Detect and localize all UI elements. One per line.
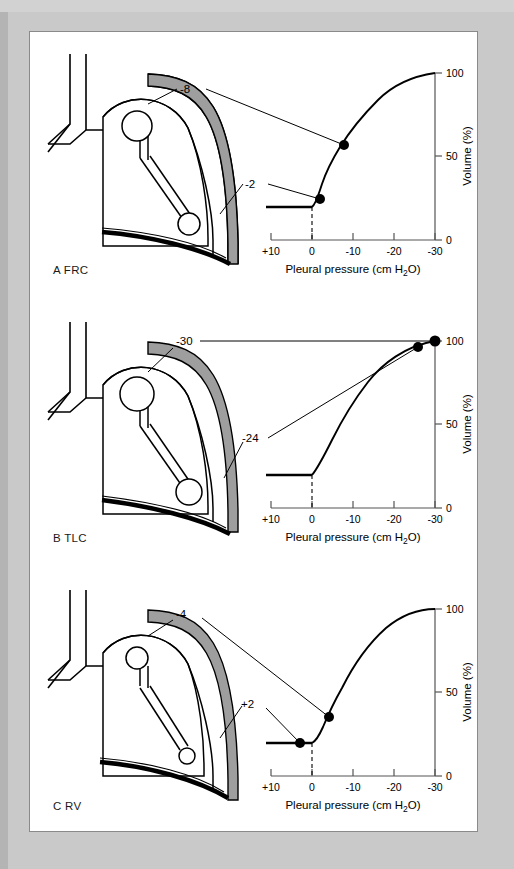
trachea-left-wall [48,54,70,144]
axes-b [271,341,442,508]
x-tick-label-plus10-b: +10 [262,513,280,525]
y-tick-label-0-a: 0 [446,234,452,246]
x-tick-label-minus20-c: -20 [386,781,401,793]
x-tick-label-minus30-c: -30 [427,781,442,793]
panel-b-tlc: -30 -24 +10 0 -10 -20 -30 0 50 100 Pleur… [30,300,479,568]
bronchus-branch-left-b [48,392,70,420]
leader-pleural-short-a [148,89,177,104]
trachea-left-wall-b [48,322,70,412]
leader-alveolar-to-point-a [268,184,320,199]
bronchus-branch-left [48,124,70,152]
panel-a-frc: -8 -2 +10 0 -10 -20 -30 0 50 100 Pleural… [30,32,479,300]
y-tick-label-100-b: 100 [446,335,464,347]
x-tick-label-minus20-a: -20 [386,245,401,257]
page-top-shading [0,0,514,12]
trachea-left-wall-c [48,590,70,680]
bronchus-branch-left-2-c [48,666,86,680]
bronchus-branch-left-2-b [48,398,86,412]
x-tick-label-minus20-b: -20 [386,513,401,525]
x-axis-title-a: Pleural pressure (cm H2O) [285,263,420,278]
y-tick-label-100-c: 100 [446,603,464,615]
panel-a-graphic: -8 -2 +10 0 -10 -20 -30 0 50 100 Pleural… [30,32,479,300]
x-tick-label-minus10-a: -10 [345,245,360,257]
panel-b-graphic: -30 -24 +10 0 -10 -20 -30 0 50 100 Pleur… [30,300,479,568]
y-tick-label-50-b: 50 [446,418,458,430]
alveolus-lower-a [178,213,200,235]
label-pleural-pressure-b: -30 [176,335,193,347]
page-gutter-shading [0,0,8,869]
panel-caption-a: A FRC [53,264,88,276]
y-axis-title-b: Volume (%) [461,394,473,454]
x-tick-label-plus10-c: +10 [262,781,280,793]
label-alveolar-pressure-b: -24 [242,432,259,444]
panel-c-graphic: -4 +2 +10 0 -10 -20 -30 0 50 100 Pleural… [30,568,479,833]
leader-alveolar-to-point-b [268,347,418,438]
label-pleural-pressure-a: -8 [180,83,190,95]
bronchus-branch-left-c [48,660,70,688]
y-axis-title-a: Volume (%) [461,126,473,186]
x-tick-label-minus10-b: -10 [345,513,360,525]
alveolus-lower-c [179,748,195,764]
panel-caption-c: C RV [53,800,81,812]
y-tick-label-50-a: 50 [446,150,458,162]
x-axis-title-c: Pleural pressure (cm H2O) [285,799,420,814]
leader-pleural-to-point-a [206,89,344,145]
figure-white-panel: -8 -2 +10 0 -10 -20 -30 0 50 100 Pleural… [29,31,478,832]
x-tick-label-plus10-a: +10 [262,245,280,257]
bronchus-branch-left-2 [48,130,86,144]
panel-caption-b: B TLC [53,532,87,544]
y-tick-label-0-b: 0 [446,502,452,514]
pressure-volume-curve-c [312,609,435,743]
x-tick-label-minus10-c: -10 [345,781,360,793]
y-axis-title-c: Volume (%) [461,662,473,722]
axes-a [271,73,442,240]
x-tick-label-0-a: 0 [309,245,315,257]
x-tick-label-0-b: 0 [309,513,315,525]
x-axis-title-b: Pleural pressure (cm H2O) [285,531,420,546]
leader-alveolar-to-point-c [266,708,300,743]
label-alveolar-pressure-c: +2 [241,698,254,710]
x-tick-label-minus30-a: -30 [427,245,442,257]
alveolus-upper-b [120,377,154,411]
y-tick-label-50-c: 50 [446,686,458,698]
x-tick-label-0-c: 0 [309,781,315,793]
figure-root: -8 -2 +10 0 -10 -20 -30 0 50 100 Pleural… [0,0,514,869]
y-tick-label-100-a: 100 [446,67,464,79]
pressure-volume-curve-b [312,341,435,475]
x-tick-label-minus30-b: -30 [427,513,442,525]
panel-c-rv: -4 +2 +10 0 -10 -20 -30 0 50 100 Pleural… [30,568,479,833]
label-alveolar-pressure-a: -2 [245,178,255,190]
axes-c [271,609,442,776]
alveolus-lower-b [176,479,202,505]
y-tick-label-0-c: 0 [446,770,452,782]
alveolus-upper-c [126,647,148,669]
alveolus-upper-a [122,111,152,141]
label-pleural-pressure-c: -4 [176,608,187,620]
